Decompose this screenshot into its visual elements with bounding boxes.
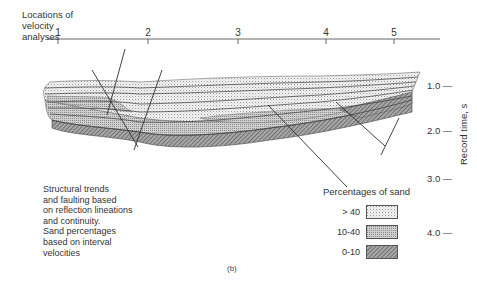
figure-caption: (b) — [227, 264, 237, 273]
legend-item-low-sand: 0-10 — [330, 244, 398, 260]
note-line: based on interval — [43, 237, 133, 248]
time-axis-title: Record time, s — [458, 104, 469, 165]
legend-label: 10-40 — [330, 227, 360, 237]
time-tick-2: 2.0 — — [427, 125, 452, 136]
note-line: Structural trends — [43, 184, 133, 195]
time-tick-3: 3.0 — — [427, 173, 452, 184]
time-tick-4: 4.0 — — [427, 227, 452, 238]
method-note: Structural trends and faulting based on … — [43, 184, 133, 258]
note-line: velocities — [43, 248, 133, 259]
location-label-5: 5 — [391, 27, 397, 38]
legend-label: 0-10 — [330, 247, 360, 257]
location-label-2: 2 — [145, 27, 151, 38]
geologic-section — [44, 49, 420, 187]
legend-item-high-sand: > 40 — [330, 204, 398, 220]
location-label-3: 3 — [235, 27, 241, 38]
location-label-1: 1 — [55, 27, 61, 38]
hatch-swatch-icon — [366, 245, 398, 259]
dense-dot-swatch-icon — [366, 225, 398, 239]
time-tick-1: 1.0 — — [427, 80, 452, 91]
sparse-dot-swatch-icon — [366, 205, 398, 219]
axis-title-line: Locations of — [22, 9, 73, 20]
note-line: on reflection lineations — [43, 205, 133, 216]
legend-title: Percentages of sand — [323, 186, 410, 197]
location-label-4: 4 — [323, 27, 329, 38]
note-line: and faulting based — [43, 195, 133, 206]
note-line: Sand percentages — [43, 226, 133, 237]
legend-label: > 40 — [330, 207, 360, 217]
legend-item-mid-sand: 10-40 — [330, 224, 398, 240]
location-axis-title: Locations of velocity analyses — [22, 9, 73, 42]
axis-title-line: analyses — [22, 31, 73, 42]
axis-title-line: velocity — [22, 20, 73, 31]
velocity-location-axis — [47, 39, 440, 44]
note-line: and continuity. — [43, 216, 133, 227]
